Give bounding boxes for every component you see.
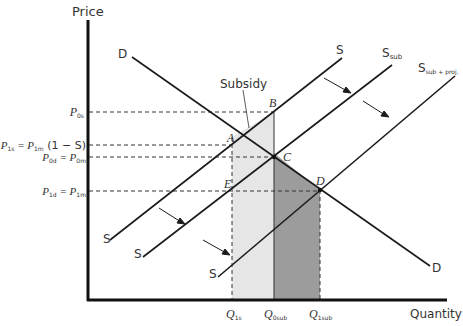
arrow-icon — [363, 101, 385, 115]
quantity-label-q1sub: Q1sub — [309, 307, 332, 321]
demand-label-top: D — [118, 47, 127, 61]
quantity-label-q1s: Q1s — [226, 307, 242, 321]
point-a-label: A — [226, 131, 235, 145]
y-axis-label: Price — [72, 4, 104, 19]
point-c-dot — [272, 155, 276, 159]
arrow-icon — [324, 78, 347, 91]
demand-label-bottom: D — [432, 261, 441, 275]
x-axis-label: Quantity — [410, 307, 462, 321]
supply-label-top: S — [336, 43, 344, 57]
price-label-p1d: P1d = P1m — [41, 185, 86, 198]
supply-sub-label-bottom: S — [134, 247, 142, 261]
price-label-p0s: P0s — [69, 105, 84, 119]
arrow-icon — [159, 208, 181, 222]
economics-diagram: Price Quantity D D S S S S Ssub Ssub + p… — [0, 0, 463, 326]
subsidy-label: Subsidy — [220, 77, 267, 91]
supply-sub-proj-label-top: Ssub + proj. — [418, 61, 459, 76]
point-d-dot — [318, 188, 322, 192]
point-c-label: C — [283, 150, 292, 164]
price-label-p0d: P0d = P0m — [41, 151, 86, 164]
supply-sub-label-top: Ssub — [382, 46, 403, 61]
dark-region — [274, 153, 320, 300]
point-d-label: D — [315, 174, 325, 188]
supply-sub-proj-label-bottom: S — [209, 267, 217, 281]
supply-label-bottom: S — [103, 232, 111, 246]
point-b-label: B — [269, 96, 277, 110]
arrow-icon — [203, 240, 226, 253]
subsidy-pointer — [243, 90, 249, 128]
point-e-label: E — [223, 177, 232, 191]
quantity-label-q0sub: Q0sub — [264, 307, 287, 321]
